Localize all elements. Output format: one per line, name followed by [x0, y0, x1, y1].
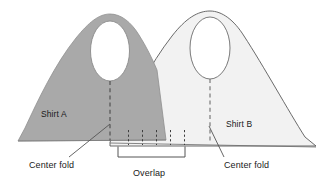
shirt-overlap-diagram: Shirt A Shirt B Center fold Center fold … — [0, 0, 322, 187]
diagram-canvas — [0, 0, 322, 187]
shirt-b-neck-hole — [190, 17, 230, 79]
shirt-a-neck-hole — [91, 21, 130, 81]
shirt-b-label: Shirt B — [226, 120, 252, 129]
shirt-a-body — [18, 14, 166, 141]
overlap-bracket — [118, 147, 185, 157]
overlap-label: Overlap — [133, 169, 165, 178]
center-fold-right-label: Center fold — [224, 161, 269, 170]
center-fold-left-label: Center fold — [29, 161, 74, 170]
shirt-a-group — [18, 14, 166, 141]
shirt-a-label: Shirt A — [41, 110, 67, 119]
